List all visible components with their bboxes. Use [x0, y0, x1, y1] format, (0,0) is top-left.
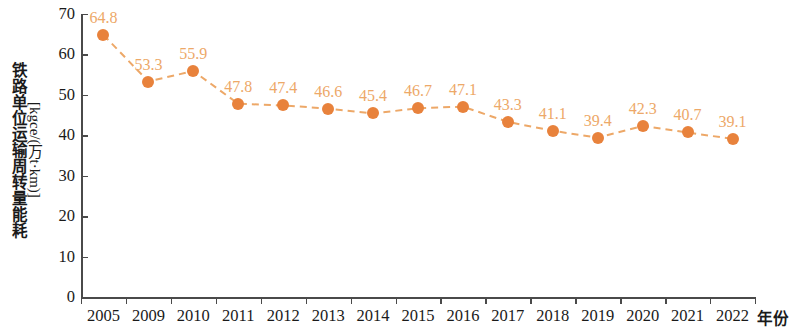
y-axis-tick-label: 10: [15, 247, 75, 267]
data-point-label: 39.1: [703, 113, 763, 131]
x-axis-tick: [575, 297, 576, 304]
y-axis-tick-label: 60: [15, 44, 75, 64]
x-axis-tick: [261, 297, 262, 304]
x-axis-tick: [81, 297, 82, 304]
x-axis-tick: [755, 297, 756, 304]
x-axis-tick: [216, 297, 217, 304]
y-axis-tick-label: 70: [15, 4, 75, 24]
data-point: [502, 116, 514, 128]
x-axis-tick: [710, 297, 711, 304]
x-axis-title: 年份: [757, 306, 789, 328]
x-axis-tick: [665, 297, 666, 304]
y-axis-tick-label: 20: [15, 206, 75, 226]
x-axis-tick: [396, 297, 397, 304]
data-point: [682, 126, 694, 138]
data-point-label: 64.8: [73, 9, 133, 27]
chart-figure: 铁路单位运输周转量能耗 [kgce/(万t·km)] 0102030405060…: [0, 0, 791, 330]
y-axis-tick-label: 40: [15, 125, 75, 145]
data-point: [457, 101, 469, 113]
x-axis-line: [81, 297, 755, 299]
data-point: [232, 98, 244, 110]
x-axis-tick-label: 2022: [703, 306, 763, 326]
data-point: [727, 133, 739, 145]
y-axis-tick: [83, 297, 88, 298]
x-axis-tick: [351, 297, 352, 304]
y-axis-tick-label: 30: [15, 166, 75, 186]
data-point: [322, 103, 334, 115]
y-axis-tick-label: 0: [15, 287, 75, 307]
x-axis-tick: [440, 297, 441, 304]
plot-area: 010203040506070 200520092010201120122013…: [81, 14, 755, 297]
x-axis-tick: [485, 297, 486, 304]
x-axis-tick: [171, 297, 172, 304]
data-point: [592, 132, 604, 144]
y-axis-tick-label: 50: [15, 85, 75, 105]
data-point: [637, 120, 649, 132]
data-point-label: 55.9: [163, 45, 223, 63]
data-point: [547, 125, 559, 137]
x-axis-tick: [126, 297, 127, 304]
x-axis-tick: [620, 297, 621, 304]
x-axis-tick: [530, 297, 531, 304]
x-axis-tick: [306, 297, 307, 304]
data-point: [142, 76, 154, 88]
